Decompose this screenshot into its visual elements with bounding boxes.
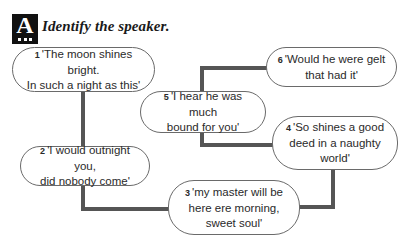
- quote-line: In such a night as this': [27, 79, 140, 91]
- quote-bubble-6: 6'Would he were gelt that had it': [266, 47, 397, 87]
- connector-5-6: [202, 68, 266, 91]
- quote-line: 'I would outnight you,: [47, 144, 130, 172]
- quote-line: world': [320, 152, 350, 164]
- quote-number: 4: [286, 123, 291, 133]
- quote-number: 1: [35, 50, 40, 60]
- quote-line: 'my master will be: [192, 186, 283, 198]
- quote-line: here ere morning,: [189, 202, 280, 214]
- quote-line: deed in a naughty: [289, 137, 380, 149]
- quote-bubble-5: 5'I hear he was much bound for you': [140, 91, 266, 133]
- quote-number: 5: [164, 92, 169, 102]
- quote-bubble-4: 4'So shines a good deed in a naughty wor…: [272, 116, 398, 170]
- connector-3-4: [300, 170, 333, 207]
- quote-line: 'The moon shines bright.: [42, 48, 132, 76]
- quote-number: 2: [40, 146, 45, 156]
- quote-bubble-1: 1'The moon shines bright. In such a nigh…: [12, 47, 155, 92]
- quote-line: did nobody come': [40, 175, 130, 187]
- quote-line: 'So shines a good: [293, 121, 384, 133]
- connector-2-3: [83, 186, 168, 209]
- quote-bubble-2: 2'I would outnight you, did nobody come': [20, 146, 150, 186]
- quote-line: 'I hear he was much: [171, 90, 242, 118]
- quote-line: 'Would he were gelt: [285, 53, 385, 65]
- quote-line: that had it': [305, 69, 358, 81]
- quote-bubble-3: 3'my master will be here ere morning, sw…: [168, 180, 300, 235]
- quote-line: bound for you': [167, 121, 240, 133]
- quote-number: 3: [185, 188, 190, 198]
- quote-number: 6: [278, 55, 283, 65]
- quote-line: sweet soul': [206, 217, 263, 229]
